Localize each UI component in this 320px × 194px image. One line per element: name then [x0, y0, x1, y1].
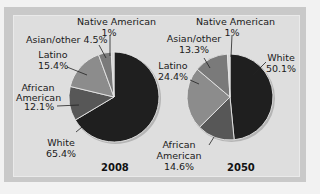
label-2008-white-name: White	[44, 137, 78, 148]
label-2050-asian-value: 13.3%	[177, 44, 211, 55]
year-2050: 2050	[227, 162, 255, 173]
year-2008: 2008	[101, 162, 129, 173]
label-2050-white-value: 50.1%	[264, 63, 298, 74]
pie-2008	[69, 52, 161, 144]
label-2050-latino-name: Latino	[156, 60, 190, 71]
label-2050-native-value: 1%	[222, 27, 242, 38]
label-2008-white-value: 65.4%	[44, 148, 78, 159]
label-2008-asian: Asian/other 4.5%	[26, 34, 108, 45]
label-2050-african-name-1: African	[156, 139, 202, 150]
label-2008-latino-value: 15.4%	[38, 60, 68, 71]
label-2008-native-name: Native American	[77, 16, 147, 27]
pie-2050	[187, 54, 275, 142]
label-2050-native-name: Native American	[196, 16, 268, 27]
label-2050-african-value: 14.6%	[162, 161, 196, 172]
label-2050-asian-name: Asian/other	[166, 33, 222, 44]
label-2050-white-name: White	[264, 52, 298, 63]
label-2008-latino-name: Latino	[38, 49, 68, 60]
label-2050-latino-value: 24.4%	[156, 71, 190, 82]
label-2050-african-name-2: American	[152, 150, 206, 161]
label-2008-african-value: 12.1%	[24, 101, 54, 112]
